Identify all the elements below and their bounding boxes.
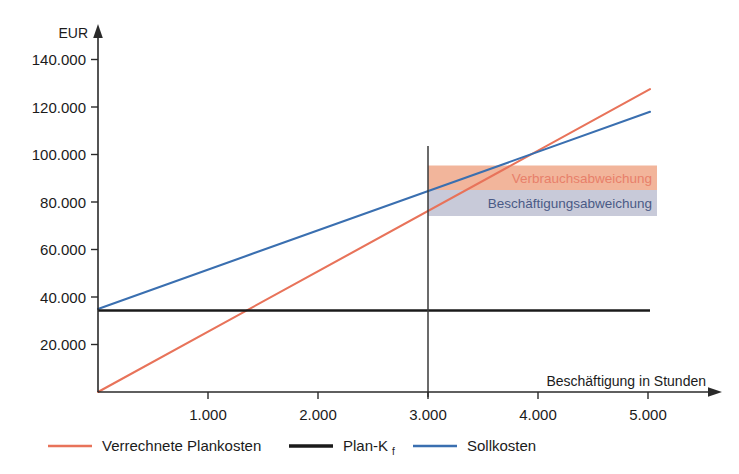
series-line-verrechnete-plankosten: [98, 89, 650, 392]
legend-item-sollkosten[interactable]: Sollkosten: [413, 437, 536, 454]
y-tick-label-100000: 100.000: [32, 146, 86, 163]
x-tick-label-2000: 2.000: [299, 406, 337, 423]
legend-label-verrechnete-plankosten: Verrechnete Plankosten: [102, 437, 261, 454]
x-tick-label-3000: 3.000: [409, 406, 447, 423]
legend-label-plan-kf: Plan-K: [343, 437, 388, 454]
y-tick-label-20000: 20.000: [40, 336, 86, 353]
legend-label-sollkosten: Sollkosten: [467, 437, 536, 454]
x-axis-arrowhead: [708, 387, 722, 397]
y-axis-title: EUR: [58, 25, 88, 41]
y-tick-label-80000: 80.000: [40, 194, 86, 211]
x-axis-title: Beschäftigung in Stunden: [546, 373, 706, 389]
chart-canvas: 20.000 40.000 60.000 80.000 100.000 120.…: [0, 0, 739, 474]
y-axis-arrowhead: [93, 24, 103, 38]
x-tick-label-5000: 5.000: [629, 406, 667, 423]
x-tick-label-4000: 4.000: [519, 406, 557, 423]
y-axis-ticks: [91, 60, 98, 345]
legend-item-verrechnete-plankosten[interactable]: Verrechnete Plankosten: [48, 437, 261, 454]
y-tick-label-40000: 40.000: [40, 289, 86, 306]
chart-legend: Verrechnete Plankosten Plan-K f Sollkost…: [48, 437, 536, 457]
y-tick-label-120000: 120.000: [32, 99, 86, 116]
verbrauchsabweichung-label: Verbrauchsabweichung: [512, 171, 652, 186]
y-tick-label-140000: 140.000: [32, 51, 86, 68]
legend-label-plan-kf-subscript: f: [392, 446, 395, 457]
cost-variance-chart: 20.000 40.000 60.000 80.000 100.000 120.…: [0, 0, 739, 474]
beschaeftigungsabweichung-label: Beschäftigungsabweichung: [488, 196, 652, 211]
legend-item-plan-kf[interactable]: Plan-K f: [289, 437, 395, 457]
x-axis-ticks: [208, 392, 648, 399]
y-tick-label-60000: 60.000: [40, 241, 86, 258]
x-tick-label-1000: 1.000: [189, 406, 227, 423]
